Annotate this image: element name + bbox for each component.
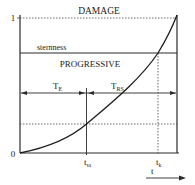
damage-title: DAMAGE: [78, 6, 120, 16]
arrowhead-right: [170, 91, 176, 95]
max-level-label: 1: [11, 13, 16, 23]
arrowhead-trs-left: [88, 91, 94, 95]
interval-trs-label: TRS: [111, 81, 124, 92]
tick-tsa-label: tsa: [84, 157, 92, 168]
time-axis-label: t: [151, 166, 154, 176]
arrowhead-left: [21, 91, 27, 95]
tick-tk-label: tk: [156, 157, 162, 168]
time-arrow-icon: [179, 176, 186, 181]
origin-label: 0: [11, 149, 16, 159]
interval-te-label: TE: [53, 81, 63, 92]
sternness-label: sternness: [37, 43, 66, 52]
damage-curve: [20, 15, 177, 153]
arrowhead-te-right: [79, 91, 85, 95]
damage-diagram: DAMAGE 1 sternness PROGRESSIVE TE TRS 0 …: [0, 0, 195, 185]
progressive-label: PROGRESSIVE: [60, 59, 121, 69]
